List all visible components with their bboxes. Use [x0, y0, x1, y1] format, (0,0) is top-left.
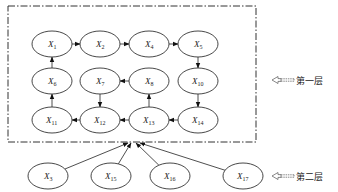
nodes: X1X2X4X5X6X7X8X10X11X12X13X14X3X15X16X17: [28, 31, 263, 189]
node-subscript: 13: [149, 120, 155, 126]
layered-network-diagram: X1X2X4X5X6X7X8X10X11X12X13X14X3X15X16X17…: [0, 0, 338, 192]
node-x10: X10: [178, 68, 218, 94]
node-subscript: 12: [100, 120, 106, 126]
node-x16: X16: [150, 163, 190, 189]
layer-2-indicator: 第二层: [272, 171, 323, 182]
node-subscript: 16: [170, 176, 176, 182]
node-x5: X5: [178, 31, 218, 57]
node-x15: X15: [91, 163, 131, 189]
node-subscript: 4: [151, 44, 154, 50]
node-subscript: 6: [54, 81, 57, 87]
node-subscript: 5: [200, 44, 203, 50]
node-subscript: 17: [243, 176, 249, 182]
node-x2: X2: [80, 31, 120, 57]
layer-1-indicator: 第一层: [272, 75, 323, 86]
hollow-arrow-icon: [272, 173, 281, 180]
edges: [52, 44, 198, 120]
node-x13: X13: [129, 107, 169, 133]
node-subscript: 1: [54, 44, 57, 50]
layer-input-edges: [65, 143, 225, 170]
node-subscript: 10: [198, 81, 204, 87]
node-subscript: 15: [111, 176, 117, 182]
layer-1-label: 第一层: [296, 75, 323, 86]
node-subscript: 14: [198, 120, 204, 126]
node-x14: X14: [178, 107, 218, 133]
node-subscript: 3: [50, 176, 53, 182]
input-edge-x16-to-layer1: [136, 143, 159, 165]
node-subscript: 8: [151, 81, 154, 87]
node-x4: X4: [129, 31, 169, 57]
node-x17: X17: [223, 163, 263, 189]
layer-2-label: 第二层: [296, 171, 323, 182]
node-subscript: 7: [102, 81, 105, 87]
node-subscript: 2: [102, 44, 105, 50]
node-x12: X12: [80, 107, 120, 133]
node-x11: X11: [32, 107, 72, 133]
node-x8: X8: [129, 68, 169, 94]
node-x3: X3: [28, 163, 68, 189]
node-x7: X7: [80, 68, 120, 94]
node-x1: X1: [32, 31, 72, 57]
node-x6: X6: [32, 68, 72, 94]
hollow-arrow-icon: [272, 77, 281, 84]
node-subscript: 11: [52, 120, 58, 126]
